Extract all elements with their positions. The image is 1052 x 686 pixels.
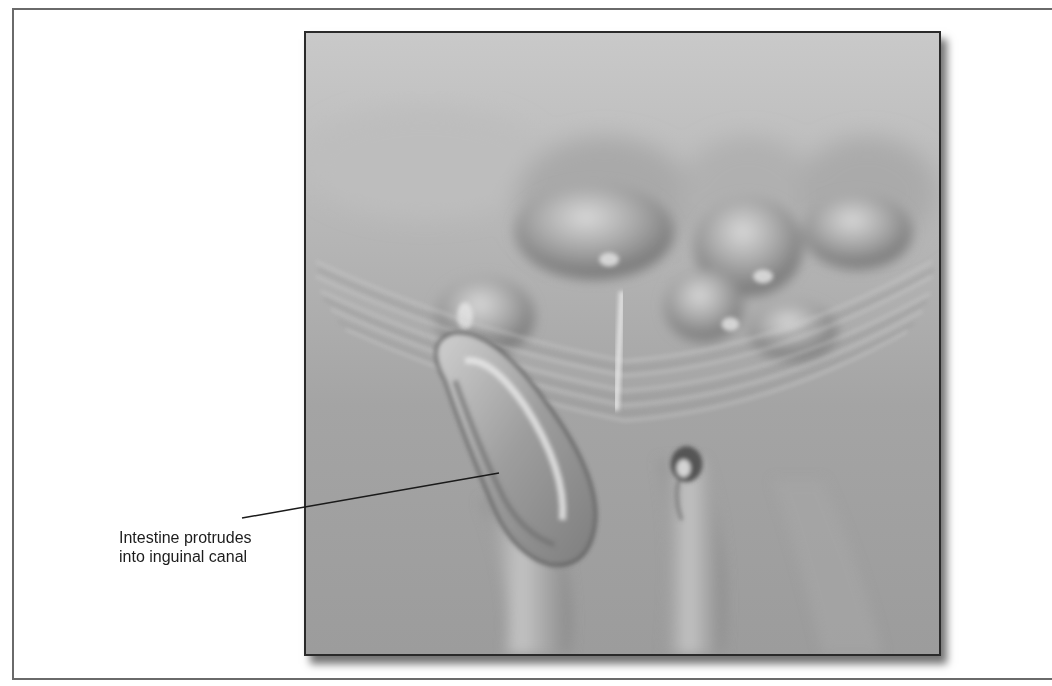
- callout-line-1: Intestine protrudes: [119, 528, 319, 547]
- frame-bottom-rule: [12, 678, 1052, 680]
- hernia-drawing: [306, 33, 939, 654]
- anatomical-illustration: [304, 31, 941, 656]
- frame-left-rule: [12, 8, 14, 680]
- callout-label-intestine: Intestine protrudes into inguinal canal: [119, 528, 319, 566]
- frame-top-rule: [12, 8, 1052, 10]
- callout-line-2: into inguinal canal: [119, 547, 319, 566]
